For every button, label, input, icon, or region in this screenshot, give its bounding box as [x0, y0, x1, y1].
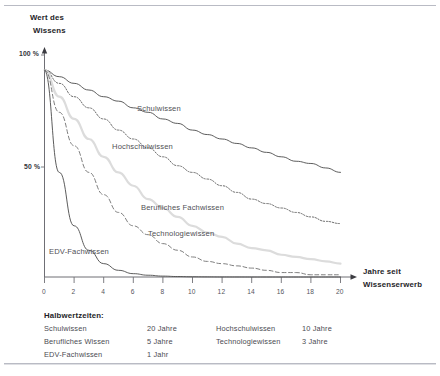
curve-label-technologiewissen: Technologiewissen — [148, 229, 214, 238]
x-tick-label-16: 16 — [277, 288, 285, 295]
legend-right-name-0: Hochschulwissen — [216, 324, 275, 333]
curve-label-schulwissen: Schulwissen — [137, 104, 181, 113]
chart-page: Wert des Wissens Jahre seit Wissenserwer… — [0, 0, 440, 376]
x-axis-label-line1: Jahre seit — [363, 267, 401, 276]
x-tick-label-2: 2 — [72, 288, 76, 295]
x-tick-label-10: 10 — [188, 288, 196, 295]
legend-right-value-1: 3 Jahre — [302, 337, 328, 346]
curve-label-hochschulwissen: Hochschulwissen — [112, 142, 173, 151]
y-axis-label-line1: Wert des — [30, 13, 64, 22]
legend-left-value-2: 1 Jahr — [147, 350, 168, 359]
legend-left-value-0: 20 Jahre — [147, 324, 177, 333]
legend-right-name-1: Technologiewissen — [216, 337, 281, 346]
series-curve-schulwissen — [45, 70, 341, 172]
x-axis-arrow — [351, 274, 358, 279]
legend-right-value-0: 10 Jahre — [302, 324, 332, 333]
y-tick-label-100: 100 % — [19, 50, 39, 57]
y-axis-label-line2: Wissens — [33, 26, 66, 35]
series-curve-edv-fachwissen — [45, 70, 341, 277]
x-tick-label-14: 14 — [247, 288, 255, 295]
x-tick-label-18: 18 — [306, 288, 314, 295]
legend-left-name-2: EDV-Fachwissen — [44, 350, 102, 359]
y-tick-label-50: 50 % — [24, 163, 40, 170]
curve-label-edv-fachwissen: EDV-Fachwissen — [49, 247, 109, 256]
x-tick-label-20: 20 — [336, 288, 344, 295]
legend-left-name-1: Berufliches Wissen — [44, 337, 110, 346]
legend-left-name-0: Schulwissen — [44, 324, 87, 333]
series-curve-hochschulwissen — [45, 70, 341, 224]
x-tick-label-12: 12 — [218, 288, 226, 295]
x-axis-label-line2: Wissenserwerb — [363, 280, 422, 289]
legend-left-value-1: 5 Jahre — [147, 337, 173, 346]
legend-title: Halbwertzeiten: — [44, 311, 104, 320]
curve-label-berufliches-fachwissen: Berufliches Fachwissen — [141, 203, 224, 212]
x-tick-label-6: 6 — [131, 288, 135, 295]
x-tick-marks — [45, 277, 341, 283]
y-axis-arrow — [42, 47, 47, 54]
x-tick-label-0: 0 — [42, 288, 46, 295]
series-paths — [45, 70, 341, 277]
x-tick-label-8: 8 — [160, 288, 164, 295]
x-tick-label-4: 4 — [101, 288, 105, 295]
